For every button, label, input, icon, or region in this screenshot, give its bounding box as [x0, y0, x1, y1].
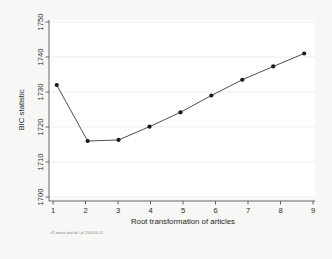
y-tick-label-1750: 1750 — [36, 14, 45, 31]
data-point-1 — [55, 83, 59, 87]
x-tick-label-2: 2 — [83, 206, 87, 215]
data-point-5 — [178, 110, 182, 114]
x-tick-label-5: 5 — [181, 206, 185, 215]
data-point-4 — [147, 125, 151, 129]
data-point-3 — [116, 138, 120, 142]
data-point-7 — [240, 78, 244, 82]
x-tick-label-8: 8 — [278, 206, 282, 215]
x-axis-title: Root transformation of articles — [131, 217, 235, 226]
chart-figure: 1750 1740 1730 1720 1710 1700 BIC statis… — [0, 0, 332, 259]
plot-area-background — [49, 20, 315, 199]
x-tick-label-9: 9 — [311, 206, 315, 215]
data-point-8 — [271, 64, 275, 68]
y-tick-label-1700: 1700 — [36, 189, 45, 206]
source-note: sf7-matrix-plot.do \ jsl 2008-04-11 — [50, 231, 103, 235]
y-tick-label-1740: 1740 — [36, 49, 45, 66]
bic-statistic-line-chart: 1750 1740 1730 1720 1710 1700 BIC statis… — [0, 0, 332, 259]
x-tick-label-7: 7 — [246, 206, 250, 215]
x-tick-label-6: 6 — [213, 206, 217, 215]
data-point-9 — [302, 51, 306, 55]
y-tick-label-1730: 1730 — [36, 84, 45, 101]
x-tick-label-1: 1 — [51, 206, 55, 215]
y-tick-label-1720: 1720 — [36, 119, 45, 136]
y-tick-label-1710: 1710 — [36, 154, 45, 171]
data-point-2 — [86, 139, 90, 143]
x-tick-label-3: 3 — [116, 206, 120, 215]
data-point-6 — [209, 93, 213, 97]
y-axis-title: BIC statistic — [17, 89, 26, 130]
x-tick-label-4: 4 — [148, 206, 152, 215]
